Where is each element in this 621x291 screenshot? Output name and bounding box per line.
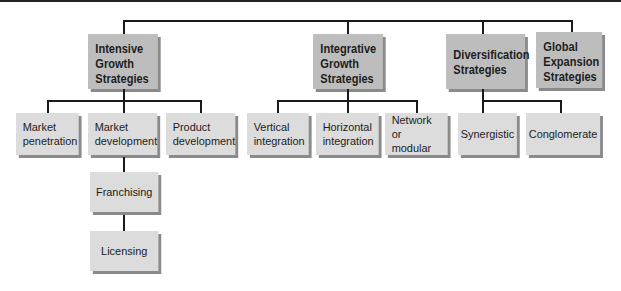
node-intensive-growth: Intensive Growth Strategies xyxy=(88,34,158,89)
connector-integrative xyxy=(347,20,349,34)
node-label: Vertical integration xyxy=(254,120,305,148)
node-label: Horizontal integration xyxy=(323,120,374,148)
node-network-modular: Network or modular xyxy=(385,113,448,155)
connector-diversification xyxy=(482,20,484,34)
connector-product-development xyxy=(200,100,202,113)
connector-diversification-bar xyxy=(482,100,562,102)
connector-market-development xyxy=(123,100,125,113)
connector-horizontal xyxy=(347,100,349,113)
node-franchising: Franchising xyxy=(90,172,158,212)
connector-licensing xyxy=(123,214,125,231)
node-synergistic: Synergistic xyxy=(458,113,517,155)
node-label: Market penetration xyxy=(23,120,78,148)
connector-franchising xyxy=(123,157,125,173)
node-product-development: Product development xyxy=(166,113,235,155)
node-label: Global Expansion Strategies xyxy=(543,40,599,85)
node-diversification: Diversification Strategies xyxy=(446,34,525,89)
node-label: Intensive Growth Strategies xyxy=(95,42,148,87)
connector-vertical xyxy=(277,100,279,113)
node-integrative-growth: Integrative Growth Strategies xyxy=(313,34,383,89)
node-label: Network or modular xyxy=(392,113,441,155)
node-label: Diversification Strategies xyxy=(453,48,529,78)
node-horizontal-integration: Horizontal integration xyxy=(316,113,379,155)
node-conglomerate: Conglomerate xyxy=(526,113,600,155)
node-global-expansion: Global Expansion Strategies xyxy=(536,32,602,88)
top-border-line xyxy=(0,0,621,2)
node-label: Conglomerate xyxy=(529,127,598,141)
node-market-penetration: Market penetration xyxy=(16,113,79,155)
node-vertical-integration: Vertical integration xyxy=(247,113,309,155)
node-label: Integrative Growth Strategies xyxy=(320,42,376,87)
connector-conglomerate xyxy=(560,100,562,113)
node-licensing: Licensing xyxy=(90,231,158,271)
node-label: Franchising xyxy=(96,185,152,199)
node-label: Licensing xyxy=(101,244,147,258)
node-label: Product development xyxy=(173,120,236,148)
connector-global xyxy=(571,20,573,32)
node-label: Market development xyxy=(95,120,158,148)
connector-synergistic xyxy=(482,100,484,113)
connector-market-penetration xyxy=(47,100,49,113)
connector-intensive xyxy=(123,20,125,34)
connector-network xyxy=(416,100,418,113)
node-label: Synergistic xyxy=(461,127,514,141)
node-market-development: Market development xyxy=(88,113,157,155)
